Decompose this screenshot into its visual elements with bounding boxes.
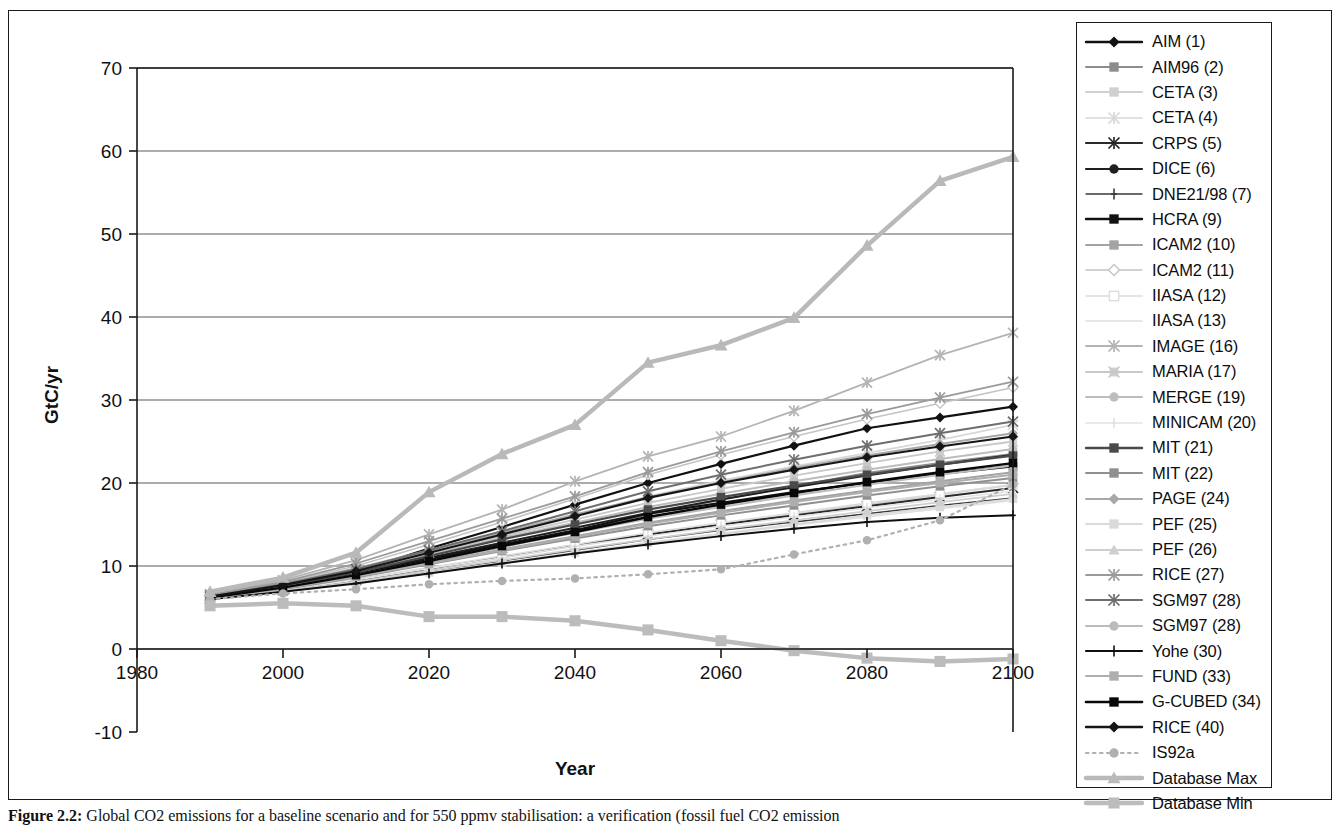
- legend-swatch-square-icon: [1083, 666, 1145, 686]
- legend-item[interactable]: Database Max: [1077, 765, 1271, 790]
- legend-swatch-star-icon: [1083, 565, 1145, 585]
- x-tick-label: 2020: [408, 662, 450, 683]
- legend-item[interactable]: ICAM2 (10): [1077, 232, 1271, 257]
- y-tick-label: 30: [101, 390, 122, 411]
- y-tick-label: 70: [101, 58, 122, 79]
- y-tick-label: 0: [111, 639, 122, 660]
- legend-swatch-circle-icon: [1083, 387, 1145, 407]
- legend-swatch-diamond-icon: [1083, 489, 1145, 509]
- legend-item-label: MERGE (19): [1152, 388, 1245, 407]
- legend-item-label: SGM97 (28): [1152, 591, 1241, 610]
- legend-swatch-plus-icon: [1083, 413, 1145, 433]
- legend-swatch-circle-icon: [1083, 616, 1145, 636]
- legend-swatch-circle-icon: [1083, 159, 1145, 179]
- legend-item[interactable]: DICE (6): [1077, 156, 1271, 181]
- legend-item[interactable]: MARIA (17): [1077, 359, 1271, 384]
- legend-swatch-circle-icon: [1083, 743, 1145, 763]
- legend-item[interactable]: PEF (26): [1077, 537, 1271, 562]
- legend-item-label: CETA (4): [1152, 108, 1218, 127]
- legend-item[interactable]: CETA (3): [1077, 80, 1271, 105]
- figure-page: 706050403020100-101980200020202040206020…: [0, 0, 1340, 826]
- legend-item[interactable]: IMAGE (16): [1077, 334, 1271, 359]
- legend-swatch-square-open-icon: [1083, 286, 1145, 306]
- legend-item-label: MIT (21): [1152, 438, 1213, 457]
- legend-item[interactable]: MERGE (19): [1077, 384, 1271, 409]
- chart-legend: AIM (1)AIM96 (2)CETA (3)CETA (4)CRPS (5)…: [1076, 22, 1272, 788]
- legend-item-label: IIASA (12): [1152, 286, 1226, 305]
- legend-item[interactable]: RICE (40): [1077, 715, 1271, 740]
- legend-item-label: PEF (25): [1152, 515, 1217, 534]
- legend-swatch-plus-icon: [1083, 641, 1145, 661]
- series-lines: [204, 150, 1020, 667]
- legend-item-label: CETA (3): [1152, 83, 1218, 102]
- legend-swatch-square-icon: [1083, 82, 1145, 102]
- legend-item[interactable]: MINICAM (20): [1077, 410, 1271, 435]
- legend-item[interactable]: IIASA (12): [1077, 283, 1271, 308]
- legend-item-label: IIASA (13): [1152, 311, 1226, 330]
- legend-item-label: MARIA (17): [1152, 362, 1236, 381]
- legend-swatch-plus-icon: [1083, 184, 1145, 204]
- legend-item[interactable]: DNE21/98 (7): [1077, 181, 1271, 206]
- x-tick-label: 1980: [116, 662, 158, 683]
- legend-item[interactable]: G-CUBED (34): [1077, 689, 1271, 714]
- legend-item[interactable]: AIM (1): [1077, 29, 1271, 54]
- legend-item[interactable]: CRPS (5): [1077, 131, 1271, 156]
- legend-swatch-square-icon: [1083, 438, 1145, 458]
- legend-item-label: SGM97 (28): [1152, 616, 1241, 635]
- legend-swatch-diamond-open-icon: [1083, 260, 1145, 280]
- y-tick-label: 60: [101, 141, 122, 162]
- legend-item-label: MIT (22): [1152, 464, 1213, 483]
- legend-swatch-star-box-icon: [1083, 362, 1145, 382]
- x-tick-label: 2060: [700, 662, 742, 683]
- legend-item[interactable]: CETA (4): [1077, 105, 1271, 130]
- legend-item-label: IS92a: [1152, 743, 1195, 762]
- legend-item-label: IMAGE (16): [1152, 337, 1238, 356]
- legend-item[interactable]: SGM97 (28): [1077, 613, 1271, 638]
- legend-swatch-square-icon: [1083, 235, 1145, 255]
- legend-item[interactable]: HCRA (9): [1077, 207, 1271, 232]
- legend-swatch-star-icon: [1083, 108, 1145, 128]
- legend-item-label: DNE21/98 (7): [1152, 185, 1252, 204]
- figure-caption-text: Figure 2.2: Global CO2 emissions for a b…: [8, 806, 1332, 826]
- legend-item[interactable]: MIT (22): [1077, 461, 1271, 486]
- legend-item-label: FUND (33): [1152, 667, 1231, 686]
- gridlines: [137, 68, 1013, 649]
- legend-item-label: RICE (27): [1152, 565, 1224, 584]
- legend-item[interactable]: MIT (21): [1077, 435, 1271, 460]
- legend-swatch-triangle-icon: [1083, 540, 1145, 560]
- legend-item-label: Yohe (30): [1152, 642, 1222, 661]
- legend-item-label: CRPS (5): [1152, 134, 1222, 153]
- legend-item[interactable]: FUND (33): [1077, 664, 1271, 689]
- x-tick-label: 2040: [554, 662, 596, 683]
- legend-item-label: Database Max: [1152, 769, 1257, 788]
- legend-item-label: AIM96 (2): [1152, 58, 1224, 77]
- y-tick-label: 20: [101, 473, 122, 494]
- legend-swatch-diamond-icon: [1083, 32, 1145, 52]
- legend-item[interactable]: IS92a: [1077, 740, 1271, 765]
- x-tick-label: 2000: [262, 662, 304, 683]
- legend-item[interactable]: PEF (25): [1077, 511, 1271, 536]
- legend-item-label: DICE (6): [1152, 159, 1215, 178]
- legend-item-label: ICAM2 (10): [1152, 235, 1235, 254]
- legend-item-label: MINICAM (20): [1152, 413, 1256, 432]
- series-30: [204, 598, 1018, 667]
- y-tick-label: 10: [101, 556, 122, 577]
- legend-item-label: HCRA (9): [1152, 210, 1222, 229]
- legend-swatch-star-icon: [1083, 590, 1145, 610]
- series-12: [205, 327, 1018, 599]
- legend-item[interactable]: SGM97 (28): [1077, 588, 1271, 613]
- legend-item-label: PAGE (24): [1152, 489, 1230, 508]
- legend-item[interactable]: IIASA (13): [1077, 308, 1271, 333]
- legend-item[interactable]: AIM96 (2): [1077, 54, 1271, 79]
- legend-item[interactable]: RICE (27): [1077, 562, 1271, 587]
- legend-item[interactable]: PAGE (24): [1077, 486, 1271, 511]
- legend-swatch-square-icon: [1083, 692, 1145, 712]
- series-22: [205, 416, 1018, 602]
- legend-swatch-square-icon: [1083, 514, 1145, 534]
- legend-item[interactable]: ICAM2 (11): [1077, 258, 1271, 283]
- legend-item-label: PEF (26): [1152, 540, 1217, 559]
- legend-swatch-square-icon: [1083, 463, 1145, 483]
- legend-swatch-square-icon: [1083, 209, 1145, 229]
- legend-swatch-square-icon: [1083, 57, 1145, 77]
- legend-item[interactable]: Yohe (30): [1077, 638, 1271, 663]
